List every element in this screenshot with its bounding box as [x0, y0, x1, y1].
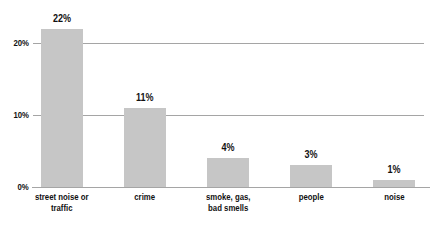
bar-2 [124, 108, 166, 187]
y-tick-label-0: 0% [0, 182, 29, 192]
bar-value-label-4: 3% [281, 149, 341, 160]
category-label-1: street noise or traffic [17, 192, 107, 213]
category-label-2: crime [100, 192, 190, 203]
bar-value-label-2-text: 11% [136, 92, 154, 103]
y-tick-label-20-text: 20% [13, 38, 29, 48]
category-label-3: smoke, gas, bad smells [183, 192, 273, 213]
bar-value-label-2: 11% [115, 92, 175, 103]
category-label-2-text: crime [135, 192, 156, 203]
bar-value-label-5: 1% [364, 164, 424, 175]
bar-chart: 22%11%4%3%1% 0%10%20%street noise or tra… [0, 0, 439, 226]
bar-value-label-3: 4% [198, 142, 258, 153]
bar-value-label-4-text: 3% [304, 149, 317, 160]
bar-value-label-1-text: 22% [53, 13, 71, 24]
category-label-4-text: people [298, 192, 323, 203]
bar-1 [41, 29, 83, 187]
y-tick-label-10: 10% [0, 110, 29, 120]
bar-5 [373, 180, 415, 187]
bar-4 [290, 165, 332, 187]
bar-value-label-3-text: 4% [221, 142, 234, 153]
x-axis-baseline [32, 187, 430, 188]
category-label-5-text: noise [384, 192, 404, 203]
category-label-3-text: smoke, gas, bad smells [206, 192, 251, 213]
category-label-5: noise [349, 192, 439, 203]
bar-3 [207, 158, 249, 187]
category-label-1-text: street noise or traffic [35, 192, 89, 213]
y-tick-label-10-text: 10% [13, 110, 29, 120]
bar-value-label-5-text: 1% [387, 164, 400, 175]
category-label-4: people [266, 192, 356, 203]
y-tick-label-20: 20% [0, 38, 29, 48]
y-tick-label-0-text: 0% [18, 182, 29, 192]
bar-value-label-1: 22% [32, 13, 92, 24]
